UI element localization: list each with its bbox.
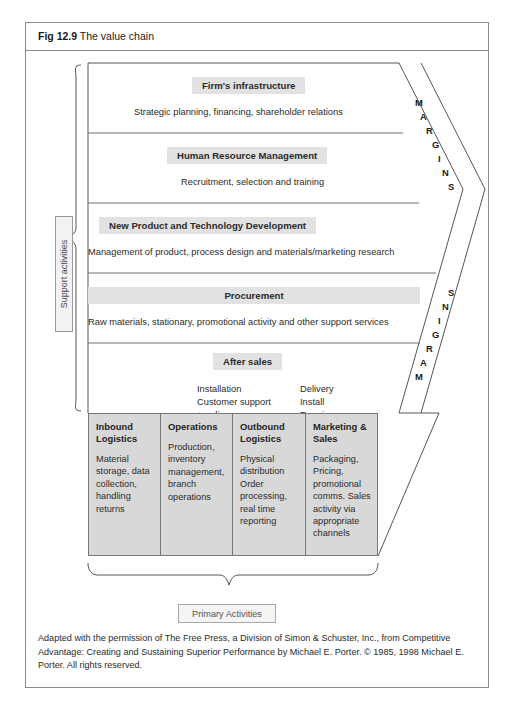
margins-lower-letter-n: N [442,301,449,312]
attribution-text: Adapted with the permission of The Free … [38,632,470,673]
band-title: New Product and Technology Development [99,217,316,234]
margins-lower-letter-r: R [426,343,433,354]
support-activities-label-text: Support activities [59,240,69,309]
band-description: Strategic planning, financing, sharehold… [134,107,343,117]
value-chain-diagram: Firm's infrastructure Strategic planning… [26,51,488,687]
primary-activity-description: Physical distribution Order processing, … [240,453,299,527]
primary-activity-description: Packaging, Pricing, promotional comms. S… [313,453,371,540]
primary-activity-title: Operations [168,421,226,433]
margins-lower-letter-a: A [420,357,427,368]
margins-lower-letter-g: G [432,329,439,340]
margins-lower-letter-m: M [415,371,423,382]
primary-activities-caption-text: Primary Activities [179,609,275,619]
primary-activity-outbound-logistics: Outbound Logistics Physical distribution… [232,413,305,556]
primary-activity-description: Material storage, data collection, handl… [96,453,154,515]
support-band-new-product-technology-development: New Product and Technology Development M… [88,203,436,273]
support-band-procurement: Procurement Raw materials, stationary, p… [88,273,420,343]
support-band-human-resource-management: Human Resource Management Recruitment, s… [88,133,419,203]
figure-number: Fig 12.9 [38,30,77,42]
primary-activity-title: Outbound Logistics [240,421,299,445]
after-sales-block: After sales Installation Customer suppor… [88,343,408,413]
after-sales-title: After sales [213,353,282,370]
lower-arrow-outline [378,413,439,556]
primary-activities-caption-box: Primary Activities [178,604,276,623]
margins-lower-letter-i: I [438,315,441,326]
primary-activity-inbound-logistics: Inbound Logistics Material storage, data… [88,413,160,556]
margins-upper-letter-r: R [426,125,433,136]
margins-upper-letter-s: S [448,181,454,192]
margins-upper-letter-g: G [432,139,439,150]
band-description: Management of product, process design an… [88,247,394,257]
margins-upper-letter-a: A [420,111,427,122]
support-activities-label: Support activities [55,216,73,332]
primary-activity-description: Production, inventory management, branch… [168,441,226,503]
support-band-firms-infrastructure: Firm's infrastructure Strategic planning… [88,63,403,133]
primary-activity-title: Inbound Logistics [96,421,154,445]
figure-caption-bar: Fig 12.9 The value chain [26,23,488,51]
band-title: Firm's infrastructure [192,77,305,94]
figure-page: Fig 12.9 The value chain [0,0,513,707]
figure-caption: Fig 12.9 The value chain [38,30,154,42]
primary-activity-marketing-sales: Marketing & Sales Packaging, Pricing, pr… [305,413,378,556]
margins-lower-letter-s: S [448,287,454,298]
margins-upper-letter-i: I [438,153,441,164]
band-description: Recruitment, selection and training [181,177,324,187]
primary-activities-brace [88,563,378,585]
figure-title: The value chain [80,30,154,42]
primary-activities-row: Inbound Logistics Material storage, data… [88,413,378,556]
primary-activity-title: Marketing & Sales [313,421,371,445]
margins-upper-letter-m: M [415,97,423,108]
band-title: Human Resource Management [167,147,327,164]
margins-upper-letter-n: N [442,167,449,178]
primary-activity-operations: Operations Production, inventory managem… [160,413,232,556]
band-title: Procurement [88,287,420,304]
figure-frame: Fig 12.9 The value chain [25,22,489,688]
band-description: Raw materials, stationary, promotional a… [88,317,389,327]
